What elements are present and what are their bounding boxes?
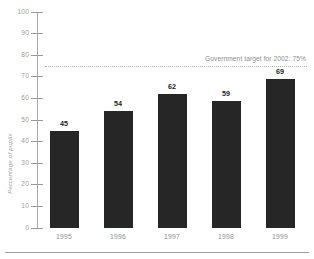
y-axis-tick <box>31 76 43 77</box>
bar-value-label: 62 <box>152 83 192 90</box>
y-axis-tick <box>31 184 43 185</box>
bar <box>266 79 295 228</box>
bottom-divider <box>5 252 309 253</box>
y-axis-tick <box>31 12 43 13</box>
bar-value-label: 59 <box>206 90 246 97</box>
y-axis-tick <box>31 163 43 164</box>
y-axis-tick-label: 70 <box>3 73 29 80</box>
y-axis-line <box>37 12 38 229</box>
bar-value-label: 45 <box>44 120 84 127</box>
bar <box>158 94 187 228</box>
y-axis-title: Percentage of pupils <box>6 119 13 209</box>
bar-value-label: 69 <box>260 68 300 75</box>
y-axis-tick-label: 80 <box>3 52 29 59</box>
y-axis-tick <box>31 206 43 207</box>
y-axis-tick-label: 100 <box>3 9 29 16</box>
y-axis-tick <box>31 120 43 121</box>
bar <box>104 111 133 228</box>
y-axis-tick <box>31 228 43 229</box>
government-target-line <box>45 66 307 67</box>
y-axis-tick <box>31 98 43 99</box>
x-axis-tick-label: 1995 <box>42 234 86 241</box>
y-axis-tick-label: 0 <box>3 225 29 232</box>
x-axis-tick-label: 1998 <box>204 234 248 241</box>
y-axis-tick <box>31 55 43 56</box>
bar <box>50 131 79 228</box>
bar-chart: 0102030405060708090100 Government target… <box>0 0 314 259</box>
y-axis-tick <box>31 141 43 142</box>
y-axis-tick <box>31 33 43 34</box>
bar-value-label: 54 <box>98 100 138 107</box>
x-axis-tick-label: 1999 <box>258 234 302 241</box>
government-target-label: Government target for 2002: 75% <box>205 55 306 62</box>
bar <box>212 101 241 228</box>
x-axis-tick-label: 1996 <box>96 234 140 241</box>
x-axis-tick-label: 1997 <box>150 234 194 241</box>
y-axis-tick-label: 60 <box>3 95 29 102</box>
y-axis-tick-label: 90 <box>3 30 29 37</box>
